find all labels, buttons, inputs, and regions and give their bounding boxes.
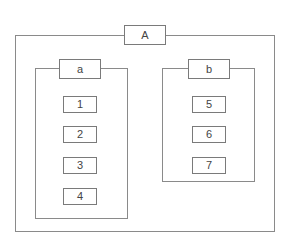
- container-A-label-text: A: [141, 30, 148, 41]
- group-a-item: 1: [63, 96, 97, 113]
- group-a-item: 4: [63, 188, 97, 205]
- item-label: 5: [206, 99, 212, 110]
- group-b-label-text: b: [206, 64, 212, 75]
- group-a-label: a: [59, 59, 101, 79]
- group-a-item: 3: [63, 157, 97, 174]
- item-label: 6: [206, 129, 212, 140]
- item-label: 2: [77, 129, 83, 140]
- group-b-item: 5: [192, 96, 226, 113]
- item-label: 1: [77, 99, 83, 110]
- item-label: 7: [206, 160, 212, 171]
- group-b-label: b: [188, 59, 230, 79]
- group-b-item: 6: [192, 126, 226, 143]
- group-a-label-text: a: [77, 64, 83, 75]
- item-label: 3: [77, 160, 83, 171]
- item-label: 4: [77, 191, 83, 202]
- container-A-label: A: [124, 25, 166, 45]
- group-b-item: 7: [192, 157, 226, 174]
- group-a-item: 2: [63, 126, 97, 143]
